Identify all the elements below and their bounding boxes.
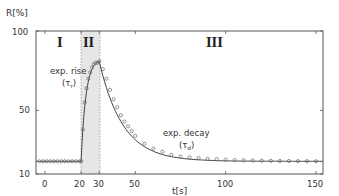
- x-tick-100: 100: [217, 179, 233, 189]
- annotation-tau-decay: (τd): [179, 140, 194, 151]
- x-tick-50: 50: [129, 179, 140, 189]
- annotation-exp-rise: exp. rise: [50, 66, 86, 76]
- x-tick-150: 150: [307, 179, 323, 189]
- plot-frame: [36, 31, 323, 174]
- x-tick-0: 0: [42, 179, 47, 189]
- region-label-i: I: [57, 36, 63, 50]
- y-axis-label: R[%]: [6, 8, 28, 18]
- x-tick-30: 30: [93, 179, 104, 189]
- region-ii-shading: [81, 31, 100, 174]
- y-tick-50: 50: [19, 105, 30, 115]
- annotation-exp-decay: exp. decay: [163, 128, 209, 138]
- region-label-ii: II: [83, 36, 95, 50]
- region-label-iii: III: [206, 36, 223, 50]
- chart: R[%] 100 50 10 0 20 30 50 100 150 t[s] I…: [0, 0, 339, 196]
- axis-ticks: [36, 31, 323, 174]
- x-axis-label: t[s]: [172, 186, 187, 196]
- y-tick-100: 100: [12, 27, 28, 37]
- x-tick-20: 20: [74, 179, 85, 189]
- annotation-tau-rise: (τr): [62, 78, 76, 89]
- y-tick-10: 10: [19, 169, 30, 179]
